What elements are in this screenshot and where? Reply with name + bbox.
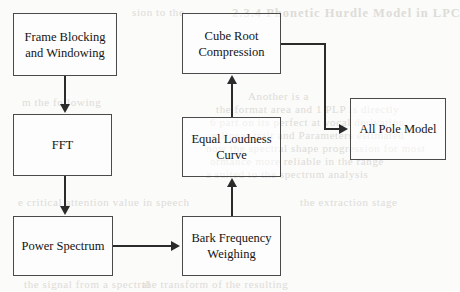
arrowhead-down-icon	[60, 104, 70, 113]
edge-fft-to-power-spectrum	[64, 176, 66, 208]
node-power-spectrum[interactable]: Power Spectrum	[13, 216, 113, 276]
flowchart-canvas: 2.3.4 Phonetic Hurdle Model in LPC sion …	[0, 0, 460, 292]
edge-power-spectrum-to-bark-frequency	[113, 245, 173, 247]
bleed-text: the extraction stage	[300, 196, 398, 208]
edge-cube-root-to-all-pole-segment-2	[324, 43, 326, 129]
node-all-pole-model[interactable]: All Pole Model	[350, 98, 446, 160]
node-equal-loudness-label-line1: Equal Loudness	[191, 131, 271, 147]
node-fft[interactable]: FFT	[13, 114, 112, 176]
node-power-spectrum-label: Power Spectrum	[22, 238, 105, 254]
edge-bark-frequency-to-equal-loudness	[231, 187, 233, 216]
bleed-text: the signal from a spectral	[24, 278, 151, 290]
edge-cube-root-to-all-pole-segment-1	[281, 43, 326, 45]
node-cube-root[interactable]: Cube Root Compression	[182, 13, 281, 74]
arrowhead-up-icon	[227, 75, 237, 84]
arrowhead-right-icon	[171, 241, 180, 251]
bleed-text: Another is a	[248, 90, 309, 102]
node-bark-frequency-label-line1: Bark Frequency	[191, 230, 271, 246]
node-frame-blocking-label-line1: Frame Blocking	[25, 29, 106, 45]
node-all-pole-model-label: All Pole Model	[359, 121, 436, 137]
node-bark-frequency[interactable]: Bark Frequency Weighing	[182, 216, 281, 276]
edge-equal-loudness-to-cube-root	[231, 84, 233, 117]
bleed-text: the transform of the resulting	[142, 278, 288, 290]
node-equal-loudness-label-line2: Curve	[191, 147, 271, 163]
node-fft-label: FFT	[52, 137, 74, 153]
edge-frame-blocking-to-fft	[64, 76, 66, 106]
arrowhead-up-icon	[227, 178, 237, 187]
node-bark-frequency-label-line2: Weighing	[191, 246, 271, 262]
arrowhead-right-icon	[339, 124, 348, 134]
node-equal-loudness[interactable]: Equal Loudness Curve	[182, 117, 281, 177]
node-frame-blocking[interactable]: Frame Blocking and Windowing	[13, 13, 117, 76]
arrowhead-down-icon	[60, 206, 70, 215]
node-frame-blocking-label-line2: and Windowing	[25, 45, 106, 61]
node-cube-root-label-line1: Cube Root	[199, 28, 265, 44]
node-cube-root-label-line2: Compression	[199, 44, 265, 60]
bleed-text: sion to the	[132, 6, 184, 18]
bleed-text: e critical attention value in speech	[18, 196, 190, 208]
